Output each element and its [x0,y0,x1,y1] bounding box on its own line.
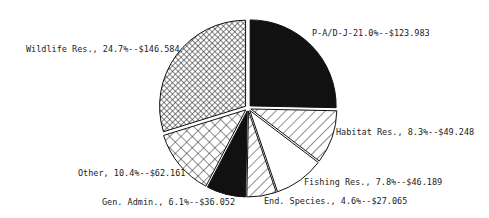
label-wildlife: Wildlife Res., 24.7%--$146.584 [26,44,180,54]
label-habitat: Habitat Res., 8.3%--$49.248 [336,127,474,137]
label-padj: P-A/D-J-21.0%--$123.983 [312,28,430,38]
label-end-species: End. Species., 4.6%--$27.065 [264,196,407,206]
pie-chart: P-A/D-J-21.0%--$123.983 Habitat Res., 8.… [0,0,489,218]
label-fishing: Fishing Res., 7.8%--$46.189 [304,177,442,187]
label-gen-admin: Gen. Admin., 6.1%--$36.052 [102,197,235,207]
label-other: Other, 10.4%--$62.161 [78,168,185,178]
